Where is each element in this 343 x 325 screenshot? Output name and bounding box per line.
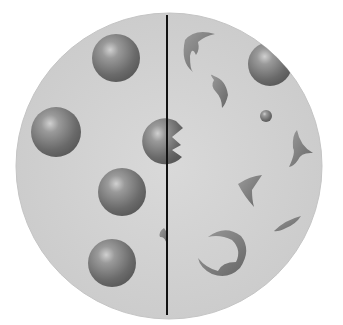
illustration xyxy=(0,0,343,325)
sphere-cell xyxy=(248,42,292,86)
cell-diagram xyxy=(0,0,343,325)
sphere-cell xyxy=(92,34,140,82)
sphere-cell xyxy=(98,168,146,216)
sphere-cell xyxy=(88,239,136,287)
microsphere-cell xyxy=(260,110,272,122)
sphere-cell xyxy=(31,107,81,157)
